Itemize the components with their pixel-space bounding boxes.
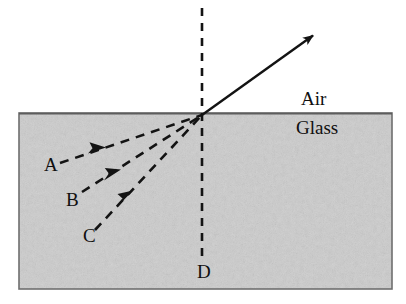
ray-label-b: B [66,190,79,209]
ray-label-c: C [83,226,96,245]
normal-label-d: D [197,262,211,281]
medium-label-air: Air [301,89,326,108]
refraction-diagram [0,0,406,304]
refracted-ray [202,36,313,116]
figure-canvas: A B C D Air Glass [0,0,406,304]
ray-label-a: A [44,155,58,174]
medium-label-glass: Glass [296,118,338,137]
